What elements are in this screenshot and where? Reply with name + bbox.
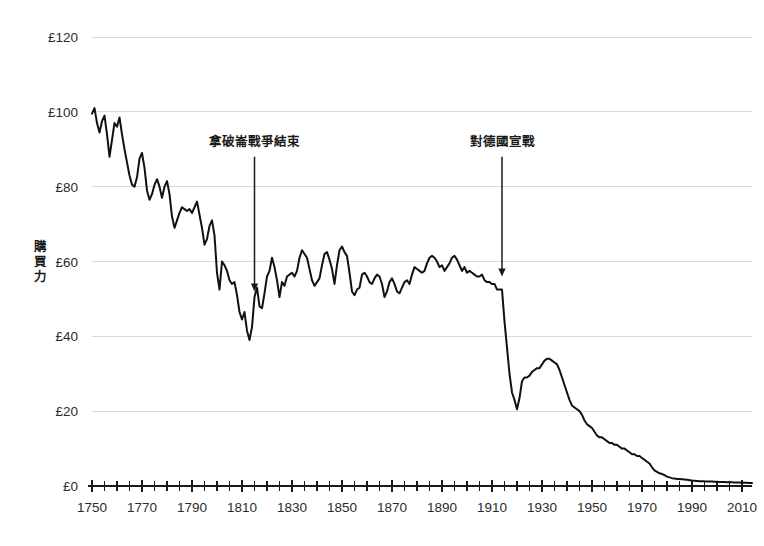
x-tick-label-1830: 1830	[277, 500, 307, 515]
x-tick-label-1970: 1970	[627, 500, 657, 515]
y-axis-title: 購買力	[33, 239, 47, 284]
x-tick-label-1850: 1850	[327, 500, 357, 515]
x-tick-label-1930: 1930	[527, 500, 557, 515]
y-axis-title-char-1: 買	[34, 254, 47, 269]
y-tick-label-0: £0	[63, 479, 78, 494]
y-tick-label-20: £20	[55, 404, 78, 419]
x-tick-label-1950: 1950	[577, 500, 607, 515]
annotation-label-0: 拿破崙戰爭結束	[208, 134, 300, 149]
x-tick-label-1870: 1870	[377, 500, 407, 515]
x-tick-label-1750: 1750	[77, 500, 107, 515]
x-tick-label-1770: 1770	[127, 500, 157, 515]
x-tick-label-1990: 1990	[677, 500, 707, 515]
x-tick-label-1910: 1910	[477, 500, 507, 515]
annotation-label-1: 對德國宣戰	[470, 134, 535, 149]
purchasing-power-line-chart: £0£20£40£60£80£100£120 17501770179018101…	[0, 0, 764, 546]
y-axis-title-char-0: 購	[33, 239, 47, 254]
x-tick-label-1810: 1810	[227, 500, 257, 515]
y-tick-label-80: £80	[55, 180, 78, 195]
y-axis-title-char-2: 力	[34, 269, 47, 284]
y-tick-label-40: £40	[55, 329, 78, 344]
x-tick-label-1890: 1890	[427, 500, 457, 515]
y-tick-label-100: £100	[48, 105, 78, 120]
y-tick-label-120: £120	[48, 30, 78, 45]
x-tick-label-1790: 1790	[177, 500, 207, 515]
y-tick-label-60: £60	[55, 255, 78, 270]
x-tick-label-2010: 2010	[727, 500, 757, 515]
chart-container: £0£20£40£60£80£100£120 17501770179018101…	[0, 0, 764, 546]
